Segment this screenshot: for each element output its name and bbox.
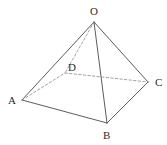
edge-OA — [22, 22, 94, 100]
pyramid-svg-canvas — [0, 0, 167, 145]
pyramid-figure: OABCD — [0, 0, 167, 145]
vertex-label-D: D — [68, 62, 76, 73]
edge-AB — [22, 100, 107, 123]
edge-DC-hidden — [65, 73, 148, 82]
edge-OC — [94, 22, 148, 82]
vertex-label-B: B — [103, 130, 110, 141]
solid-edge-group — [22, 22, 148, 123]
vertex-label-O: O — [90, 6, 98, 17]
edge-OB — [94, 22, 107, 123]
vertex-label-C: C — [155, 77, 162, 88]
vertex-label-A: A — [8, 95, 16, 106]
edge-BC — [107, 82, 148, 123]
